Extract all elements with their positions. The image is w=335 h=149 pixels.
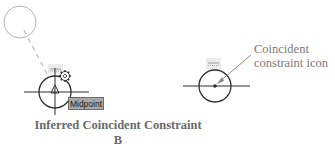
callout-label: Coincident constraint icon	[254, 42, 328, 70]
figure-label: B	[18, 133, 218, 148]
figure-caption: Inferred Coincident Constraint	[18, 118, 218, 133]
callout-arrowhead	[217, 77, 224, 84]
callout-line-1: Coincident	[254, 42, 328, 56]
right-figure	[183, 55, 251, 102]
coincident-point	[213, 84, 217, 88]
reference-circle	[4, 6, 36, 38]
midpoint-tooltip: Midpoint	[68, 97, 104, 110]
gear-icon	[59, 70, 71, 82]
callout-line-2: constraint icon	[254, 56, 328, 70]
callout-leader-line	[218, 55, 251, 83]
